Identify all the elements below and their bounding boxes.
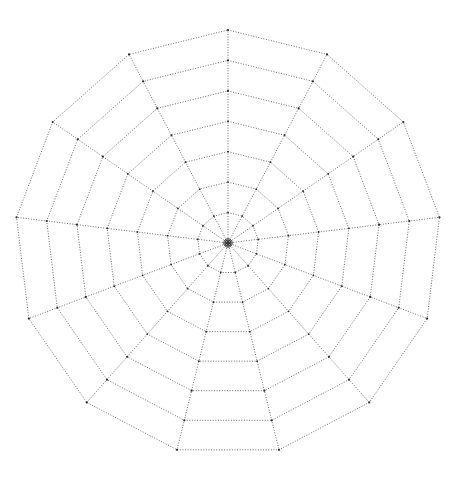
- radar-axis-spoke: [29, 243, 228, 319]
- radar-vertex-marker: [227, 181, 229, 183]
- radar-vertex-marker: [256, 360, 258, 362]
- radar-vertex-marker: [284, 134, 286, 136]
- radar-vertex-marker: [191, 390, 193, 392]
- radar-vertex-marker: [227, 212, 229, 214]
- radar-vertex-marker: [426, 317, 428, 319]
- radar-vertex-marker: [302, 190, 304, 192]
- radar-vertex-marker: [257, 238, 259, 240]
- radar-vertex-marker: [227, 151, 229, 153]
- radar-vertex-marker: [152, 190, 154, 192]
- radar-vertex-marker: [327, 173, 329, 175]
- radar-vertex-marker: [326, 53, 328, 55]
- radar-vertex-marker: [167, 310, 169, 312]
- radar-vertex-marker: [368, 401, 370, 403]
- radar-vertex-marker: [106, 379, 108, 381]
- radar-vertex-marker: [136, 231, 138, 233]
- radar-vertex-marker: [56, 307, 58, 309]
- radar-vertex-marker: [127, 173, 129, 175]
- radar-vertex-marker: [256, 253, 258, 255]
- radar-vertex-marker: [377, 138, 379, 140]
- radar-vertex-marker: [284, 264, 286, 266]
- radar-axis-spoke: [228, 122, 403, 243]
- radar-vertex-marker: [76, 224, 78, 226]
- radar-vertex-marker: [126, 356, 128, 358]
- radar-center-point: [227, 242, 229, 244]
- radar-vertex-marker: [156, 107, 158, 109]
- radar-vertex-marker: [177, 208, 179, 210]
- radar-vertex-marker: [102, 156, 104, 158]
- radar-vertex-marker: [213, 215, 215, 217]
- radar-vertex-marker: [241, 215, 243, 217]
- radar-vertex-marker: [77, 138, 79, 140]
- radar-vertex-marker: [106, 227, 108, 229]
- radar-vertex-marker: [263, 390, 265, 392]
- radar-vertex-marker: [142, 80, 144, 82]
- radar-vertex-marker: [402, 121, 404, 123]
- radar-hub-marker: [224, 239, 232, 247]
- radar-vertex-marker: [176, 449, 178, 451]
- radar-vertex-marker: [348, 227, 350, 229]
- radar-vertex-marker: [185, 161, 187, 163]
- radar-vertex-marker: [298, 107, 300, 109]
- radar-vertex-marker: [312, 274, 314, 276]
- radar-vertex-marker: [247, 265, 249, 267]
- radar-vertex-marker: [288, 235, 290, 237]
- radar-axis-spoke: [87, 243, 228, 402]
- radar-vertex-marker: [167, 235, 169, 237]
- radar-vertex-marker: [308, 333, 310, 335]
- radar-vertex-marker: [183, 419, 185, 421]
- radar-vertex-marker: [341, 285, 343, 287]
- radar-vertex-marker: [352, 156, 354, 158]
- radar-vertex-marker: [398, 307, 400, 309]
- chart-canvas: [0, 0, 459, 477]
- radar-vertex-marker: [46, 220, 48, 222]
- radar-vertex-marker: [227, 59, 229, 61]
- radar-vertex-marker: [85, 296, 87, 298]
- radar-vertex-marker: [52, 121, 54, 123]
- radar-vertex-marker: [15, 216, 17, 218]
- radar-axis-spoke: [228, 243, 369, 402]
- radar-vertex-marker: [408, 220, 410, 222]
- radar-vertex-marker: [197, 238, 199, 240]
- radar-vertex-marker: [369, 296, 371, 298]
- radar-vertex-marker: [146, 333, 148, 335]
- radar-vertex-marker: [288, 310, 290, 312]
- radar-vertex-marker: [213, 301, 215, 303]
- radar-vertex-marker: [312, 80, 314, 82]
- radar-vertex-marker: [438, 216, 440, 218]
- radar-axis-spoke: [17, 217, 228, 243]
- radar-vertex-marker: [267, 288, 269, 290]
- radar-vertex-marker: [199, 188, 201, 190]
- radar-vertex-marker: [270, 161, 272, 163]
- radar-vertex-marker: [28, 317, 30, 319]
- radar-vertex-marker: [113, 285, 115, 287]
- radar-vertex-marker: [242, 301, 244, 303]
- radar-vertex-marker: [348, 379, 350, 381]
- radar-chart: [0, 0, 459, 477]
- radar-vertex-marker: [277, 208, 279, 210]
- radar-vertex-marker: [271, 419, 273, 421]
- radar-vertex-marker: [318, 231, 320, 233]
- radar-vertex-marker: [227, 90, 229, 92]
- radar-vertex-marker: [171, 134, 173, 136]
- radar-vertex-marker: [255, 188, 257, 190]
- radar-vertex-marker: [142, 274, 144, 276]
- radar-vertex-marker: [205, 331, 207, 333]
- radar-vertex-marker: [328, 356, 330, 358]
- radar-vertex-marker: [249, 331, 251, 333]
- radar-vertex-marker: [86, 401, 88, 403]
- radar-axis-spoke: [228, 243, 279, 450]
- radar-vertex-marker: [128, 53, 130, 55]
- radar-vertex-marker: [227, 120, 229, 122]
- radar-vertex-marker: [198, 360, 200, 362]
- radar-vertex-marker: [199, 253, 201, 255]
- radar-vertex-marker: [378, 224, 380, 226]
- radar-vertex-marker: [187, 288, 189, 290]
- radar-vertex-marker: [220, 272, 222, 274]
- radar-vertex-marker: [252, 225, 254, 227]
- radar-axis-spoke: [177, 243, 228, 450]
- radar-vertex-marker: [234, 272, 236, 274]
- radar-vertex-marker: [278, 449, 280, 451]
- radar-axis-spoke: [228, 217, 439, 243]
- radar-vertex-marker: [202, 225, 204, 227]
